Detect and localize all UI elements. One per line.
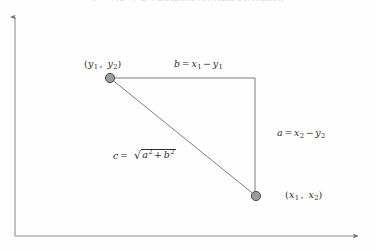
side-b-equals: = — [180, 58, 191, 69]
side-a-var: a — [277, 127, 283, 138]
side-a-term1-sub: 2 — [300, 132, 305, 140]
side-b-equation-label: b=x1−y1 — [174, 59, 223, 69]
radicand-term2-exp: 2 — [170, 148, 175, 156]
paren-close: ) — [118, 58, 122, 69]
point-c-sub1: 1 — [295, 194, 300, 202]
point-a-sub1: 1 — [94, 63, 99, 71]
point-c-sub2: 2 — [314, 194, 319, 202]
side-a-equation-label: a=x2−y2 — [277, 128, 325, 138]
side-b-term2-sub: 1 — [219, 63, 224, 71]
radical-sign: √ — [134, 149, 141, 162]
point-c-var1: x — [289, 189, 295, 200]
point-c-coordinate-label: (x1, x2) — [285, 190, 322, 200]
point-c-dot — [251, 191, 260, 200]
side-a-term2-sub: 2 — [321, 132, 326, 140]
point-a-var1: y — [88, 58, 94, 69]
side-c-line — [110, 78, 256, 196]
side-b-minus: − — [202, 58, 213, 69]
figure-canvas — [0, 0, 375, 251]
side-c-var: c — [113, 150, 119, 161]
side-b-term1-sub: 1 — [197, 63, 202, 71]
point-a-dot — [105, 73, 114, 82]
distance-formula-figure: c = √(a² + b²) distance formula derivati… — [0, 0, 375, 251]
radicand-plus: + — [153, 149, 164, 160]
side-a-term1: x — [294, 127, 300, 138]
radicand: a2+b2 — [141, 149, 175, 160]
side-b-term2: y — [213, 58, 219, 69]
square-root-expression: √a2+b2 — [133, 149, 176, 161]
side-a-minus: − — [304, 127, 315, 138]
radicand-term1-exp: 2 — [148, 148, 153, 156]
paren-close: ) — [319, 189, 323, 200]
point-a-sub2: 2 — [113, 63, 118, 71]
point-a-coordinate-label: (y1, y2) — [84, 59, 122, 69]
side-c-equals: = — [119, 150, 130, 161]
side-c-equation-label: c= √a2+b2 — [113, 149, 176, 161]
side-a-equals: = — [283, 127, 294, 138]
